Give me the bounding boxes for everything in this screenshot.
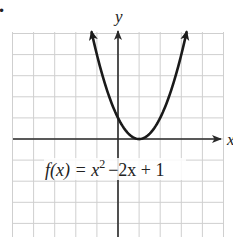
- graph-figure: yx f(x) = x2−2x + 1 •: [0, 0, 233, 237]
- function-equation: f(x) = x2−2x + 1: [44, 157, 186, 181]
- axes: [13, 31, 221, 237]
- y-axis-label: y: [113, 7, 123, 26]
- x-axis-label: x: [226, 130, 233, 149]
- axis-labels: yx: [113, 7, 233, 149]
- bullet-marker: •: [0, 4, 5, 18]
- parabola-plot: yx f(x) = x2−2x + 1: [0, 0, 233, 237]
